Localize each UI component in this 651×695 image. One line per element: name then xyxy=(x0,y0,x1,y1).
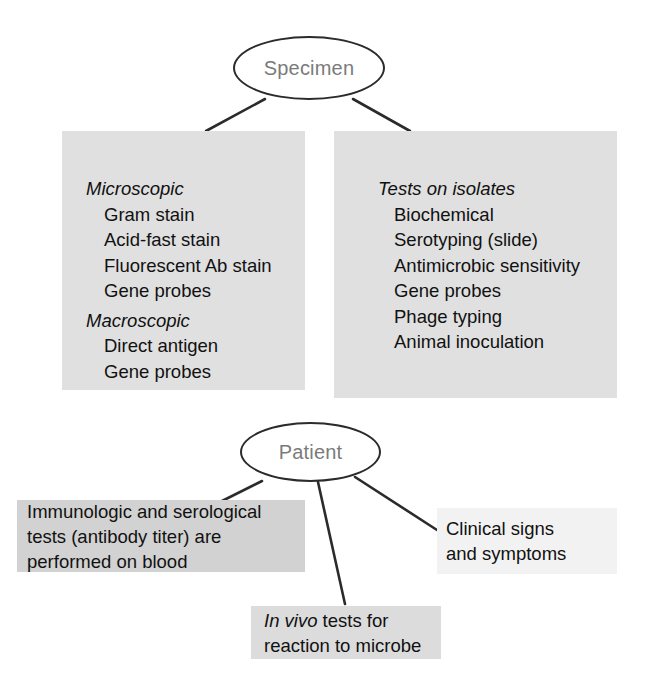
node-specimen-label: Specimen xyxy=(264,58,355,78)
callout-in-vivo-text: In vivo tests for reaction to microbe xyxy=(264,608,421,658)
callout-in-vivo-line-2: reaction to microbe xyxy=(264,633,421,658)
list-item-fluorescent-ab-stain: Fluorescent Ab stain xyxy=(104,253,304,279)
callout-serology-line-2: tests (antibody titer) are xyxy=(27,524,261,549)
callout-in-vivo-italic: In vivo xyxy=(264,610,317,631)
list-item-direct-antigen: Direct antigen xyxy=(104,333,304,359)
node-patient-label: Patient xyxy=(279,442,343,462)
node-patient[interactable]: Patient xyxy=(240,422,381,482)
diagram-canvas: Specimen Direct Testing Microscopic Gram… xyxy=(0,0,651,695)
callout-serology-line-1: Immunologic and serological xyxy=(27,499,261,524)
list-item-gram-stain: Gram stain xyxy=(104,202,304,228)
list-item-gene-probes-macroscopic: Gene probes xyxy=(104,359,304,385)
connector-patient-clinical-signs xyxy=(355,477,437,530)
list-item-gene-probes-microscopic: Gene probes xyxy=(104,278,304,304)
list-item-animal-inoculation: Animal inoculation xyxy=(394,329,618,355)
list-item-serotyping-slide: Serotyping (slide) xyxy=(394,227,618,253)
connector-specimen-direct-testing xyxy=(206,99,265,131)
connector-patient-in-vivo xyxy=(318,482,345,604)
panel-direct-testing-body: Microscopic Gram stain Acid-fast stain F… xyxy=(64,176,304,384)
group-heading-tests-on-isolates: Tests on isolates xyxy=(378,176,618,202)
group-heading-microscopic: Microscopic xyxy=(86,176,304,202)
callout-clinical-signs-text: Clinical signs and symptoms xyxy=(446,516,566,566)
list-item-gene-probes-isolates: Gene probes xyxy=(394,278,618,304)
callout-in-vivo: In vivo tests for reaction to microbe xyxy=(251,606,441,659)
list-item-acid-fast-stain: Acid-fast stain xyxy=(104,227,304,253)
callout-serology: Immunologic and serological tests (antib… xyxy=(17,500,305,572)
node-specimen[interactable]: Specimen xyxy=(233,36,385,100)
panel-culture-isolation-body: Tests on isolates Biochemical Serotyping… xyxy=(336,176,618,355)
callout-in-vivo-line-1: In vivo tests for xyxy=(264,608,421,633)
group-heading-macroscopic: Macroscopic xyxy=(86,308,304,334)
callout-clinical-signs-line-2: and symptoms xyxy=(446,541,566,566)
list-item-phage-typing: Phage typing xyxy=(394,304,618,330)
callout-clinical-signs-line-1: Clinical signs xyxy=(446,516,566,541)
list-item-antimicrobic-sensitivity: Antimicrobic sensitivity xyxy=(394,253,618,279)
callout-serology-line-3: performed on blood xyxy=(27,549,261,574)
callout-serology-text: Immunologic and serological tests (antib… xyxy=(27,499,261,574)
list-item-biochemical: Biochemical xyxy=(394,202,618,228)
connector-specimen-culture-isolation xyxy=(353,99,410,131)
callout-clinical-signs: Clinical signs and symptoms xyxy=(437,508,617,574)
callout-in-vivo-line-1-rest: tests for xyxy=(317,610,388,631)
